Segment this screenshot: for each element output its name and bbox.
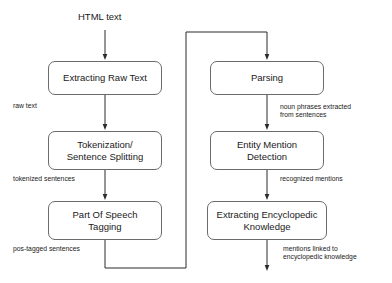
node-part-of-speech-tagging[interactable]: Part Of Speech Tagging [48, 201, 162, 240]
node-extracting-raw-text[interactable]: Extracting Raw Text [48, 61, 162, 95]
edge-label-pos-tagged-sentences: pos-tagged sentences [13, 245, 80, 253]
input-label-html-text: HTML text [78, 11, 121, 22]
edge-label-mentions-linked: mentions linked to encyclopedic knowledg… [283, 245, 357, 261]
edge-label-recognized-mentions: recognized mentions [280, 175, 343, 183]
node-entity-mention-detection[interactable]: Entity Mention Detection [210, 131, 324, 170]
edge-label-tokenized-sentences: tokenized sentences [13, 175, 75, 183]
node-tokenization-sentence-splitting[interactable]: Tokenization/ Sentence Splitting [48, 131, 162, 170]
node-parsing[interactable]: Parsing [210, 61, 324, 95]
edge-label-raw-text: raw text [13, 102, 37, 110]
node-extracting-encyclopedic-knowledge[interactable]: Extracting Encyclopedic Knowledge [207, 201, 327, 240]
edge-label-noun-phrases-extracted: noun phrases extracted from sentences [280, 103, 351, 119]
flowchart-diagram: HTML text Extracting Raw Text Tokenizati… [0, 0, 392, 283]
